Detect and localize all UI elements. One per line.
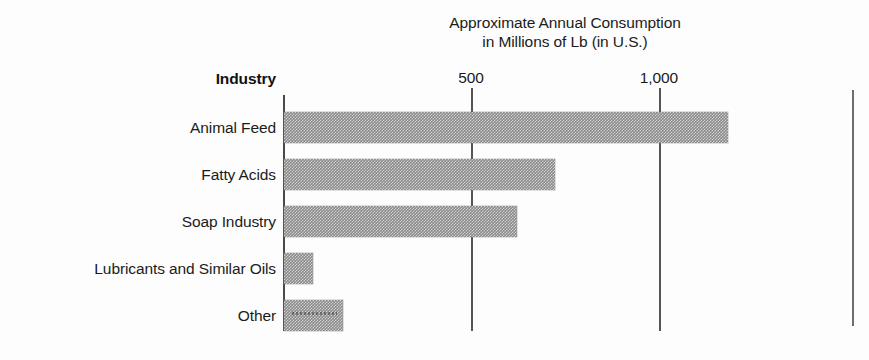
category-label-lubricants-and-similar-oils: Lubricants and Similar Oils xyxy=(0,260,276,278)
bar-chart-figure: Approximate Annual Consumption in Millio… xyxy=(0,0,869,360)
category-label-animal-feed: Animal Feed xyxy=(0,119,276,137)
category-axis-header: Industry xyxy=(0,70,276,88)
category-label-other: Other xyxy=(0,307,276,325)
chart-title: Approximate Annual Consumption in Millio… xyxy=(395,13,735,51)
category-label-soap-industry: Soap Industry xyxy=(0,213,276,231)
bar-animal-feed xyxy=(284,112,728,143)
plot-area xyxy=(283,95,783,331)
bar-soap-industry xyxy=(284,206,517,237)
chart-title-line-2: in Millions of Lb (in U.S.) xyxy=(395,32,735,51)
page-edge-rule xyxy=(852,90,854,326)
category-label-fatty-acids: Fatty Acids xyxy=(0,166,276,184)
x-tick-label-1000: 1,000 xyxy=(624,69,694,87)
x-tick-label-500: 500 xyxy=(436,69,506,87)
chart-title-line-1: Approximate Annual Consumption xyxy=(395,13,735,32)
bar-fatty-acids xyxy=(284,159,555,190)
bar-other xyxy=(284,300,343,331)
bar-lubricants-and-similar-oils xyxy=(284,253,313,284)
